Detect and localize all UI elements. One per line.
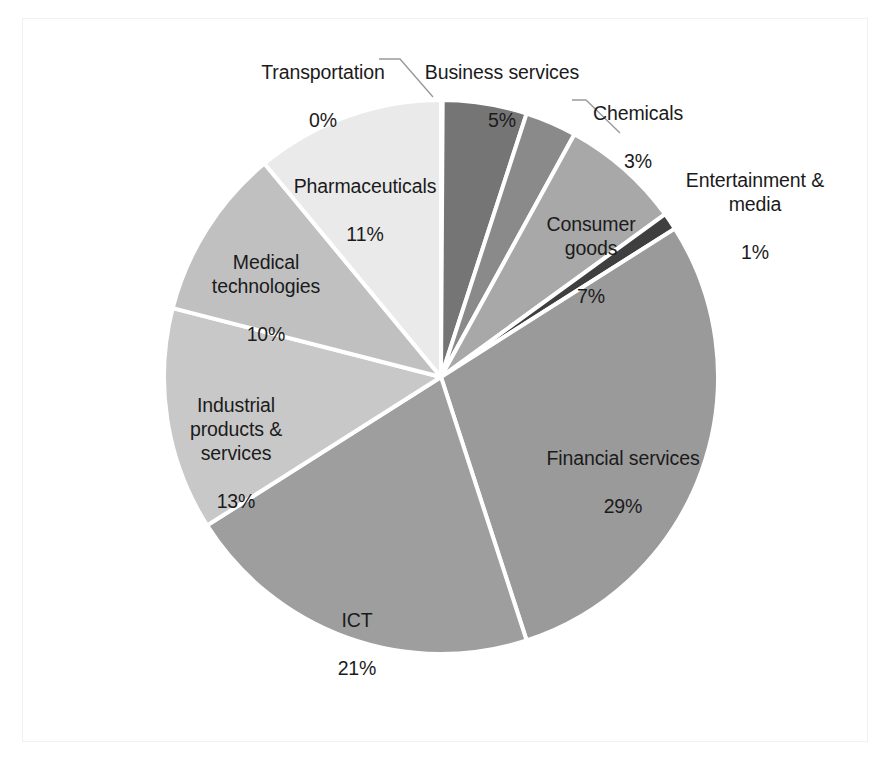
slice-label-ict-value: 21% <box>302 656 412 680</box>
slice-label-chemicals-name: Chemicals <box>578 101 698 125</box>
slice-label-entertainment-media: Entertainment & media 1% <box>665 144 845 288</box>
slice-label-business-services: Business services 5% <box>412 36 592 156</box>
slice-label-financial-services-name: Financial services <box>528 446 718 470</box>
pie-chart: Transportation 0% Business services 5% C… <box>0 0 887 765</box>
slice-label-pharmaceuticals-value: 11% <box>275 222 455 246</box>
slice-label-business-services-name: Business services <box>412 60 592 84</box>
slice-label-pharmaceuticals-name: Pharmaceuticals <box>275 174 455 198</box>
slice-label-pharmaceuticals: Pharmaceuticals 11% <box>275 150 455 270</box>
slice-label-consumer-goods: Consumer goods 7% <box>531 188 651 332</box>
slice-label-ict: ICT 21% <box>302 584 412 704</box>
slice-label-industrial-products-services: Industrial products & services 13% <box>166 369 306 537</box>
slice-label-industrial-products-services-name: Industrial products & services <box>166 393 306 465</box>
slice-label-industrial-products-services-value: 13% <box>166 489 306 513</box>
slice-label-transportation-name: Transportation <box>243 60 403 84</box>
slice-label-business-services-value: 5% <box>412 108 592 132</box>
slice-label-financial-services: Financial services 29% <box>528 422 718 542</box>
slice-label-entertainment-media-value: 1% <box>665 240 845 264</box>
slice-label-entertainment-media-name: Entertainment & media <box>665 168 845 216</box>
slice-label-transportation: Transportation 0% <box>243 36 403 156</box>
slice-label-financial-services-value: 29% <box>528 494 718 518</box>
slice-label-ict-name: ICT <box>302 608 412 632</box>
slice-label-medical-technologies-value: 10% <box>191 322 341 346</box>
slice-label-consumer-goods-name: Consumer goods <box>531 212 651 260</box>
slice-label-transportation-value: 0% <box>243 108 403 132</box>
slice-label-consumer-goods-value: 7% <box>531 284 651 308</box>
